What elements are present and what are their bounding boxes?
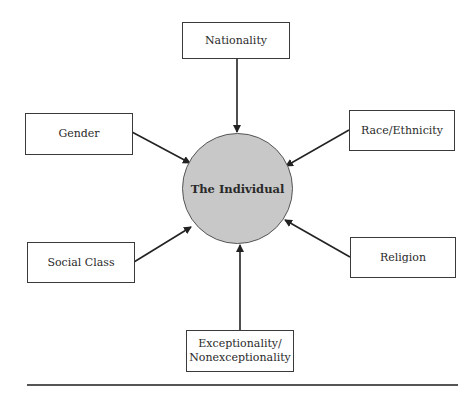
factor-race-ethnicity: Race/Ethnicity: [349, 110, 455, 151]
factor-label: Nationality: [205, 34, 267, 48]
factor-gender: Gender: [25, 113, 133, 155]
factor-label-line1: Exceptionality/: [198, 337, 282, 351]
arrow-religion: [285, 220, 350, 257]
factor-religion: Religion: [350, 237, 456, 278]
factor-exceptionality: Exceptionality/ Nonexceptionality: [186, 330, 294, 372]
factor-label: Social Class: [47, 256, 114, 270]
factor-label: Religion: [380, 251, 426, 265]
center-label: The Individual: [191, 182, 285, 196]
bottom-divider: [27, 384, 458, 386]
factor-social-class: Social Class: [27, 242, 135, 283]
factor-label: Gender: [58, 127, 99, 141]
factor-nationality: Nationality: [182, 22, 290, 59]
center-node-individual: The Individual: [182, 133, 293, 244]
arrow-race-ethnicity: [286, 130, 349, 166]
arrow-social-class: [134, 227, 191, 262]
factor-label: Race/Ethnicity: [361, 124, 443, 138]
factor-label-line2: Nonexceptionality: [189, 351, 291, 365]
arrow-gender: [132, 132, 190, 163]
